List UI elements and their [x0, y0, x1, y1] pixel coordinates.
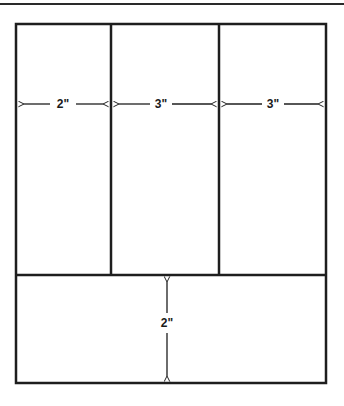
col2-width-label: 3" [154, 98, 168, 110]
col3-width-label: 3" [266, 98, 280, 110]
layout-diagram [0, 0, 344, 406]
bottom-height-label: 2" [160, 317, 174, 329]
col1-width-label: 2" [56, 98, 70, 110]
